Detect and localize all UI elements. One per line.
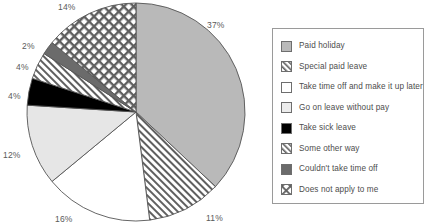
legend-item-label: Special paid leave — [299, 63, 367, 71]
legend-item-label: Go on leave without pay — [299, 104, 389, 112]
pie-chart-figure: 37%11%16%12%4%4%2%14% Paid holidaySpecia… — [0, 0, 431, 224]
legend-item-label: Take sick leave — [299, 124, 356, 132]
legend-item[interactable]: Special paid leave — [281, 57, 423, 78]
pie-slice-label: 37% — [207, 20, 225, 30]
legend-swatch-icon — [281, 164, 292, 175]
legend-swatch-icon — [281, 123, 292, 134]
legend-item[interactable]: Take sick leave — [281, 118, 423, 139]
pie-slice-group — [27, 3, 245, 221]
pie-slice-label: 12% — [3, 150, 21, 160]
legend-item-label: Some other way — [299, 145, 360, 153]
legend-swatch-icon — [281, 41, 292, 52]
pie-slice-label: 4% — [8, 91, 21, 101]
legend-item-label: Take time off and make it up later — [299, 83, 423, 91]
legend-swatch-icon — [281, 184, 292, 195]
legend-swatch-icon — [281, 61, 292, 72]
legend-swatch-icon — [281, 102, 292, 113]
legend-item[interactable]: Go on leave without pay — [281, 98, 423, 119]
legend-item-label: Does not apply to me — [299, 186, 378, 194]
legend-item-label: Paid holiday — [299, 42, 345, 50]
legend-item[interactable]: Couldn't take time off — [281, 159, 423, 180]
pie-plot-area: 37%11%16%12%4%4%2%14% — [0, 0, 265, 224]
legend-item[interactable]: Does not apply to me — [281, 180, 423, 201]
pie-slice-label: 16% — [55, 214, 73, 224]
legend-item[interactable]: Take time off and make it up later — [281, 77, 423, 98]
pie-slice-label: 4% — [16, 62, 29, 72]
pie-slice-label: 14% — [58, 2, 76, 12]
pie-slice-label: 2% — [22, 41, 35, 51]
legend-item-label: Couldn't take time off — [299, 165, 378, 173]
chart-legend: Paid holidaySpecial paid leaveTake time … — [272, 28, 424, 204]
pie-slice-label: 11% — [206, 213, 223, 223]
legend-item[interactable]: Paid holiday — [281, 36, 423, 57]
legend-item[interactable]: Some other way — [281, 139, 423, 160]
pie-svg — [0, 0, 265, 224]
legend-swatch-icon — [281, 143, 292, 154]
legend-swatch-icon — [281, 82, 292, 93]
